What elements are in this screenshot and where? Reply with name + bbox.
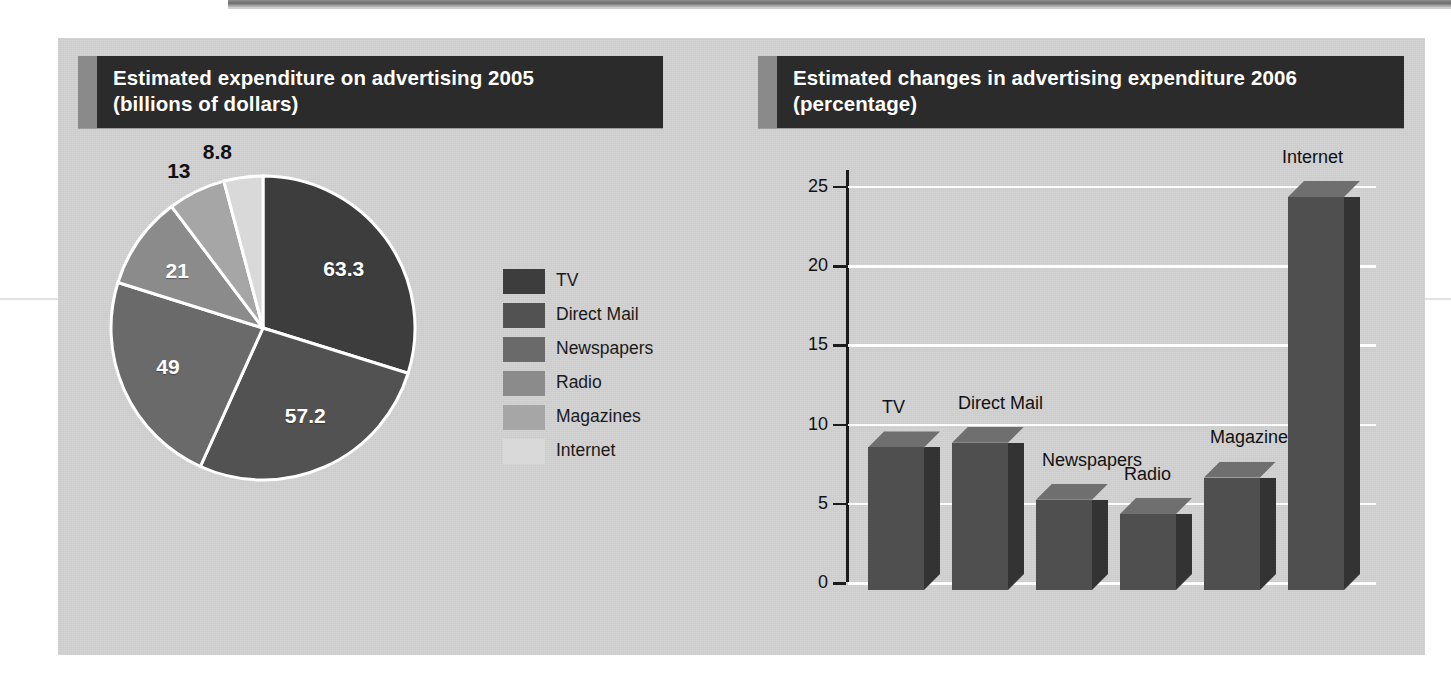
legend-item-magazines: Magazines xyxy=(503,400,713,434)
bar-side-face xyxy=(1092,500,1108,590)
bar-side-face xyxy=(1176,514,1192,590)
bar-category-label: TV xyxy=(882,397,905,418)
y-axis-tick xyxy=(833,265,846,268)
bar-title-accent-stripe xyxy=(758,56,777,128)
y-axis-line xyxy=(846,170,849,582)
bar-top-face xyxy=(1036,484,1108,500)
pie-slice-value-label: 49 xyxy=(156,355,179,379)
legend-item-newspapers: Newspapers xyxy=(503,332,713,366)
pie-slice-value-label: 63.3 xyxy=(323,257,364,281)
pie-title-line-2: (billions of dollars) xyxy=(113,91,534,117)
pie-graphic: 63.357.24921138.8 xyxy=(108,158,418,498)
y-axis-tick-label: 20 xyxy=(794,255,828,276)
legend-item-label: Radio xyxy=(556,374,602,392)
legend-item-label: Direct Mail xyxy=(556,306,639,324)
pie-title-line-1: Estimated expenditure on advertising 200… xyxy=(113,65,534,91)
bar-side-face xyxy=(924,447,940,590)
bar-internet xyxy=(1288,197,1344,590)
y-axis-tick xyxy=(833,582,846,585)
scan-artifact-strip xyxy=(228,0,1451,7)
bar-chart-title-bar: Estimated changes in advertising expendi… xyxy=(758,56,1404,128)
screenshot-root: Estimated expenditure on advertising 200… xyxy=(0,0,1451,691)
pie-title-accent-stripe xyxy=(78,56,97,128)
bar-front-face xyxy=(1204,478,1260,591)
bar-title-line-1: Estimated changes in advertising expendi… xyxy=(793,65,1297,91)
bar-side-face xyxy=(1260,478,1276,591)
figure-panel: Estimated expenditure on advertising 200… xyxy=(58,38,1425,655)
pie-plot-area: 63.357.24921138.8 TVDirect MailNewspaper… xyxy=(78,152,718,622)
bar-side-face xyxy=(1008,443,1024,590)
bar-top-face xyxy=(1120,498,1192,514)
bar-title-body: Estimated changes in advertising expendi… xyxy=(777,56,1404,128)
bar-direct-mail xyxy=(952,443,1008,590)
pie-chart-title: Estimated expenditure on advertising 200… xyxy=(113,65,534,117)
pie-slice-value-label: 21 xyxy=(166,259,189,283)
legend-item-direct-mail: Direct Mail xyxy=(503,298,713,332)
legend-item-label: TV xyxy=(556,272,578,290)
legend-swatch-icon xyxy=(503,371,545,396)
bar-category-label: Radio xyxy=(1124,464,1171,485)
bar-tv xyxy=(868,447,924,590)
legend-item-radio: Radio xyxy=(503,366,713,400)
scan-artifact-edge xyxy=(228,7,1451,9)
y-axis-tick xyxy=(833,424,846,427)
y-axis-tick-label: 0 xyxy=(794,572,828,593)
pie-chart-block: Estimated expenditure on advertising 200… xyxy=(78,56,718,646)
legend-swatch-icon xyxy=(503,269,545,294)
legend-swatch-icon xyxy=(503,439,545,464)
pie-slice-value-label: 57.2 xyxy=(285,404,326,428)
bar-front-face xyxy=(1120,514,1176,590)
y-axis-tick-label: 10 xyxy=(794,414,828,435)
legend-item-tv: TV xyxy=(503,264,713,298)
gridline xyxy=(848,186,1376,189)
y-axis-tick xyxy=(833,344,846,347)
bar-front-face xyxy=(1288,197,1344,590)
bar-top-face xyxy=(952,427,1024,443)
bar-top-face xyxy=(868,431,940,447)
y-axis-tick xyxy=(833,503,846,506)
bar-newspapers xyxy=(1036,500,1092,590)
y-axis-tick-label: 15 xyxy=(794,334,828,355)
bar-category-label: Internet xyxy=(1282,147,1343,168)
legend-swatch-icon xyxy=(503,337,545,362)
pie-chart-title-bar: Estimated expenditure on advertising 200… xyxy=(78,56,663,128)
pie-slice-value-label: 8.8 xyxy=(203,140,232,164)
pie-title-body: Estimated expenditure on advertising 200… xyxy=(97,56,663,128)
bar-front-face xyxy=(868,447,924,590)
pie-svg xyxy=(108,158,418,498)
bar-radio xyxy=(1120,514,1176,590)
bar-category-label: Magazines xyxy=(1210,427,1297,448)
pie-slice-value-label: 13 xyxy=(167,159,190,183)
legend-swatch-icon xyxy=(503,405,545,430)
bar-front-face xyxy=(952,443,1008,590)
bar-top-face xyxy=(1204,462,1276,478)
bar-magazines xyxy=(1204,478,1260,591)
legend-item-label: Internet xyxy=(556,442,615,460)
legend-swatch-icon xyxy=(503,303,545,328)
y-axis-tick xyxy=(833,186,846,189)
bar-side-face xyxy=(1344,197,1360,590)
y-axis-tick-label: 5 xyxy=(794,493,828,514)
legend-item-label: Magazines xyxy=(556,408,641,426)
bar-front-face xyxy=(1036,500,1092,590)
bar-title-line-2: (percentage) xyxy=(793,91,1297,117)
legend-item-label: Newspapers xyxy=(556,340,653,358)
bar-chart-title: Estimated changes in advertising expendi… xyxy=(793,65,1297,117)
y-axis-tick-label: 25 xyxy=(794,176,828,197)
bar-plot-area: 0510152025 TVDirect MailNewspapersRadioM… xyxy=(758,152,1408,632)
legend-item-internet: Internet xyxy=(503,434,713,468)
bar-top-face xyxy=(1288,181,1360,197)
bar-category-label: Direct Mail xyxy=(958,393,1043,414)
bar-chart-block: Estimated changes in advertising expendi… xyxy=(758,56,1408,646)
pie-legend: TVDirect MailNewspapersRadioMagazinesInt… xyxy=(503,264,713,468)
bar-plot: 0510152025 TVDirect MailNewspapersRadioM… xyxy=(846,170,1376,590)
